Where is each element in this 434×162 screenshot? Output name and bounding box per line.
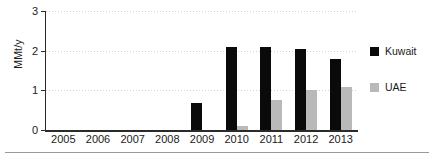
legend-item-kuwait: Kuwait	[370, 44, 417, 58]
chart-legend: KuwaitUAE	[370, 44, 417, 116]
y-tick-mark	[41, 90, 45, 91]
bar-kuwait-2013	[330, 59, 341, 130]
y-tick-mark	[41, 130, 45, 131]
y-tick-label: 3	[32, 5, 38, 17]
y-tick-mark	[41, 51, 45, 52]
bar-group	[289, 11, 324, 130]
x-tick-label: 2010	[219, 133, 254, 145]
bar-group	[185, 11, 220, 130]
plot-area: 0123	[45, 11, 358, 131]
bottom-divider	[5, 152, 429, 153]
legend-label: Kuwait	[385, 45, 417, 57]
bar-uae-2013	[341, 87, 352, 130]
bar-kuwait-2010	[226, 47, 237, 130]
x-tick-label: 2006	[81, 133, 116, 145]
legend-swatch-icon	[370, 47, 379, 56]
bar-uae-2012	[306, 90, 317, 130]
x-tick-label: 2005	[46, 133, 81, 145]
bar-group	[81, 11, 116, 130]
x-tick-label: 2007	[115, 133, 150, 145]
x-tick-label: 2012	[289, 133, 324, 145]
bar-kuwait-2011	[260, 47, 271, 130]
bar-uae-2010	[237, 126, 248, 130]
bar-group	[115, 11, 150, 130]
x-axis-labels: 200520062007200820092010201120122013	[46, 133, 358, 145]
x-tick-label: 2011	[254, 133, 289, 145]
x-tick-label: 2009	[185, 133, 220, 145]
bar-group	[46, 11, 81, 130]
x-axis-line	[45, 130, 358, 132]
bar-uae-2011	[271, 100, 282, 130]
legend-swatch-icon	[370, 83, 379, 92]
bar-group	[254, 11, 289, 130]
bar-kuwait-2012	[295, 49, 306, 130]
y-tick-label: 2	[32, 45, 38, 57]
y-tick-label: 1	[32, 84, 38, 96]
bar-kuwait-2009	[191, 103, 202, 130]
bar-groups	[46, 11, 358, 130]
y-tick-mark	[41, 11, 45, 12]
legend-label: UAE	[385, 81, 407, 93]
bar-group	[323, 11, 358, 130]
x-tick-label: 2008	[150, 133, 185, 145]
bar-group	[219, 11, 254, 130]
legend-item-uae: UAE	[370, 80, 417, 94]
x-tick-label: 2013	[323, 133, 358, 145]
bar-chart: MMt/y 0123 20052006200720082009201020112…	[0, 0, 434, 162]
y-axis-label: MMt/y	[12, 24, 24, 84]
bar-group	[150, 11, 185, 130]
y-tick-label: 0	[32, 124, 38, 136]
